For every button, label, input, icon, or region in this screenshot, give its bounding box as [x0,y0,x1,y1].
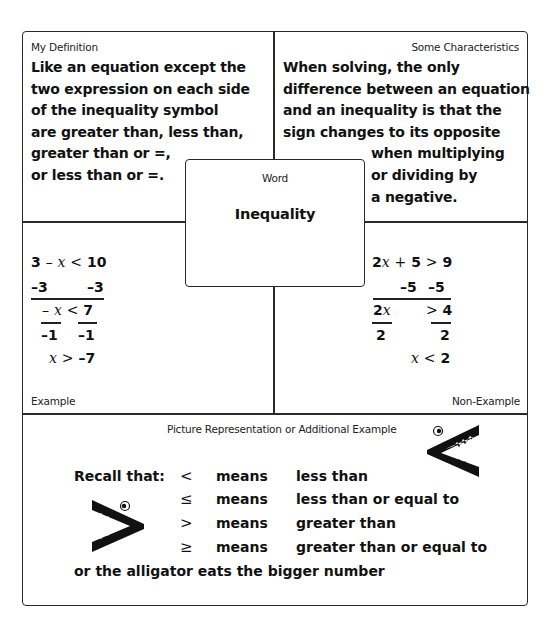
example-step-4-left: –1 [41,327,58,343]
example-step-5: x > –7 [49,350,95,366]
non-example-step-2-right: –5 [428,279,445,295]
divider-horizontal-right [364,221,528,223]
divider-horizontal-bottom [22,413,528,415]
non-example-step-4-right: 2 [440,327,450,343]
characteristics-line: sign changes to its opposite [283,122,530,144]
meaning-text: greater than [296,515,396,531]
characteristics-label: Some Characteristics [411,41,519,53]
symbol-less-than: < [180,467,193,485]
example-step-1: 3 – x < 10 [31,254,106,270]
symbol-less-than-or-equal: ≤ [180,490,193,508]
definition-line: two expression on each side [31,79,250,101]
symbol-greater-than-or-equal: ≥ [180,538,193,556]
example-underline-full [31,298,104,300]
non-example-step-1: 2x + 5 > 9 [372,254,452,270]
example-underline-right [78,322,97,324]
divider-horizontal-left [22,221,186,223]
characteristics-line: difference between an equation [283,79,530,101]
alligator-less-than-icon [425,421,483,479]
recall-label: Recall that: [74,468,165,484]
non-example-underline-full [373,298,451,300]
means-text: means [216,539,268,555]
definition-label: My Definition [31,41,98,53]
non-example-underline-left [372,322,392,324]
symbol-greater-than: > [180,514,193,532]
definition-line: of the inequality symbol [31,100,250,122]
example-step-3: – x < 7 [42,302,93,318]
definition-line: are greater than, less than, [31,122,250,144]
word-box: Word Inequality [185,159,365,287]
non-example-step-4-left: 2 [376,327,386,343]
example-label: Example [31,395,75,407]
non-example-underline-right [431,322,451,324]
divider-vertical-top [273,31,275,159]
divider-vertical-bottom [273,286,275,415]
non-example-step-5: x < 2 [411,350,450,366]
non-example-step-3-left: 2x [373,302,391,318]
non-example-step-3-right: > 4 [426,302,452,318]
characteristics-line: When solving, the only [283,57,530,79]
alligator-greater-than-icon [90,496,146,554]
definition-line: Like an equation except the [31,57,250,79]
meaning-text: less than [296,468,368,484]
non-example-label: Non-Example [452,395,520,407]
meaning-text: greater than or equal to [296,539,487,555]
characteristics-line: and an inequality is that the [283,100,530,122]
alligator-footer-text: or the alligator eats the bigger number [74,563,385,579]
example-step-4-right: –1 [78,327,95,343]
means-text: means [216,491,268,507]
example-step-2-right: –3 [87,279,104,295]
picture-label: Picture Representation or Additional Exa… [167,423,396,435]
meaning-text: less than or equal to [296,491,459,507]
means-text: means [216,515,268,531]
example-underline-left [41,322,61,324]
means-text: means [216,468,268,484]
non-example-step-2-left: –5 [400,279,417,295]
example-step-2-left: –3 [31,279,48,295]
word-label: Word [186,172,364,184]
word-term: Inequality [186,206,364,222]
